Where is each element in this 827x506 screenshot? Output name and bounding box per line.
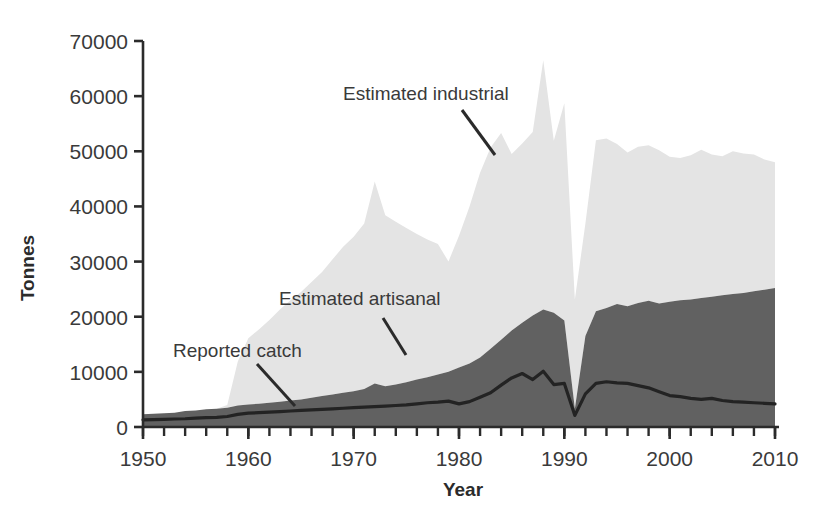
- y-axis-tick-label: 40000: [70, 195, 128, 218]
- y-axis-tick-label: 30000: [70, 251, 128, 274]
- annotation-label-reported-catch: Reported catch: [173, 340, 302, 361]
- y-axis-tick-label: 70000: [70, 30, 128, 53]
- annotation-label-estimated-artisanal: Estimated artisanal: [279, 288, 441, 309]
- y-axis-tick-label: 60000: [70, 85, 128, 108]
- x-axis-tick-label: 1950: [120, 447, 167, 470]
- stacked-area-chart: 010000200003000040000500006000070000 195…: [0, 0, 827, 506]
- y-axis-tick-label: 50000: [70, 140, 128, 163]
- x-axis-tick-label: 1990: [541, 447, 588, 470]
- x-axis-title: Year: [443, 479, 484, 500]
- x-axis-tick-label: 1970: [330, 447, 377, 470]
- y-axis-tick-label: 10000: [70, 361, 128, 384]
- chart-figure: 010000200003000040000500006000070000 195…: [0, 0, 827, 506]
- x-axis-tick-label: 1980: [436, 447, 483, 470]
- x-axis-tick-label: 2010: [752, 447, 799, 470]
- y-axis-tick-label: 20000: [70, 306, 128, 329]
- x-axis-tick-label: 2000: [646, 447, 693, 470]
- x-axis-tick-label: 1960: [225, 447, 272, 470]
- annotation-label-estimated-industrial: Estimated industrial: [343, 83, 509, 104]
- y-axis-tick-label: 0: [116, 416, 128, 439]
- y-axis-title: Tonnes: [17, 235, 38, 301]
